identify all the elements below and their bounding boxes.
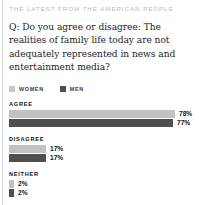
legend-swatch-women-icon [9,86,15,92]
legend-item-men: MEN [60,86,84,92]
bar-row-neither-women: 2% [9,180,193,188]
bar-neither-men [9,189,14,197]
bar-group-agree: AGREE 78% 77% [9,101,193,127]
card-content: THE LATEST FROM THE AMERICAN PEOPLE Q: D… [9,0,193,198]
bar-group-disagree: DISAGREE 17% 17% [9,136,193,162]
bar-disagree-women [9,145,46,153]
bar-agree-men [9,119,173,127]
bar-group-label-disagree: DISAGREE [9,136,193,142]
bar-value-agree-men: 77% [177,119,190,127]
bar-row-neither-men: 2% [9,189,193,197]
chart-legend: WOMEN MEN [9,86,193,92]
legend-label-men: MEN [70,86,84,92]
poll-card: THE LATEST FROM THE AMERICAN PEOPLE Q: D… [0,0,199,205]
bar-group-label-neither: NEITHER [9,171,193,177]
kicker-text: THE LATEST FROM THE AMERICAN PEOPLE [9,0,193,12]
bar-agree-women [9,110,175,118]
bar-value-neither-women: 2% [18,180,28,188]
legend-item-women: WOMEN [9,86,44,92]
legend-swatch-men-icon [60,86,66,92]
bar-row-disagree-women: 17% [9,145,193,153]
poll-question: Q: Do you agree or disagree: The realiti… [9,21,187,75]
bar-row-disagree-men: 17% [9,154,193,162]
legend-label-women: WOMEN [19,86,44,92]
bar-group-neither: NEITHER 2% 2% [9,171,193,197]
bar-row-agree-women: 78% [9,110,193,118]
bar-neither-women [9,180,14,188]
left-rule-divider [2,0,3,205]
bar-group-label-agree: AGREE [9,101,193,107]
bar-value-neither-men: 2% [18,189,28,197]
bar-disagree-men [9,154,46,162]
bar-value-disagree-men: 17% [50,154,63,162]
bar-value-disagree-women: 17% [50,145,63,153]
bar-value-agree-women: 78% [179,110,192,118]
bar-row-agree-men: 77% [9,119,193,127]
